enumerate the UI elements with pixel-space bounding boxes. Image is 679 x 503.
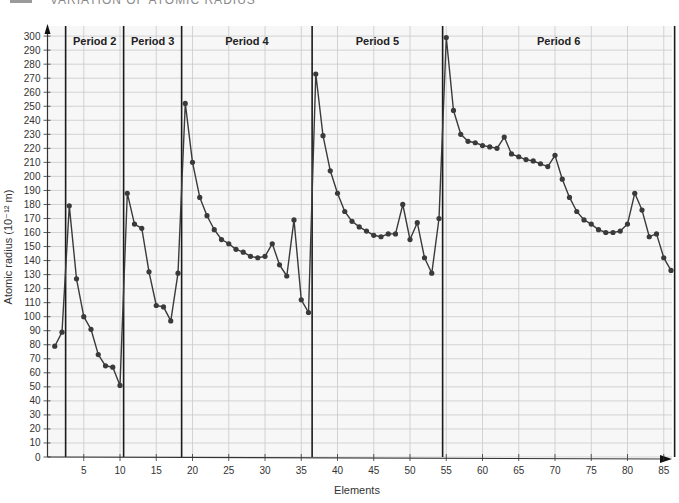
- data-point-marker: [625, 222, 630, 227]
- data-point-marker: [465, 139, 470, 144]
- data-point-marker: [473, 140, 478, 145]
- y-tick-label: 180: [24, 199, 41, 210]
- data-point-marker: [458, 132, 463, 137]
- period-label: Period 3: [131, 35, 174, 47]
- data-point-marker: [175, 271, 180, 276]
- data-point-marker: [480, 143, 485, 148]
- data-point-marker: [444, 35, 449, 40]
- data-point-marker: [277, 262, 282, 267]
- data-point-marker: [117, 383, 122, 388]
- data-point-marker: [487, 144, 492, 149]
- data-point-marker: [233, 247, 238, 252]
- x-tick-label: 65: [513, 465, 525, 476]
- y-tick-label: 250: [24, 101, 41, 112]
- data-point-marker: [146, 269, 151, 274]
- data-point-marker: [378, 234, 383, 239]
- data-point-marker: [262, 254, 267, 259]
- y-tick-label: 220: [24, 143, 41, 154]
- y-tick-label: 20: [29, 423, 41, 434]
- data-point-marker: [52, 344, 57, 349]
- y-tick-label: 130: [24, 269, 41, 280]
- data-point-marker: [328, 168, 333, 173]
- data-point-marker: [74, 276, 79, 281]
- data-point-marker: [407, 237, 412, 242]
- data-point-marker: [139, 226, 144, 231]
- data-point-marker: [552, 153, 557, 158]
- data-point-marker: [647, 234, 652, 239]
- data-point-marker: [270, 241, 275, 246]
- x-tick-label: 25: [223, 465, 235, 476]
- data-point-marker: [241, 250, 246, 255]
- y-tick-label: 230: [24, 129, 41, 140]
- data-point-marker: [255, 255, 260, 260]
- data-point-marker: [654, 231, 659, 236]
- y-axis-title: Atomic radius (10⁻¹² m): [2, 190, 14, 305]
- y-tick-label: 160: [24, 227, 41, 238]
- data-point-marker: [132, 222, 137, 227]
- data-point-marker: [59, 330, 64, 335]
- period-label: Period 5: [356, 35, 399, 47]
- data-point-marker: [212, 227, 217, 232]
- x-tick-label: 70: [549, 465, 561, 476]
- data-point-marker: [661, 255, 666, 260]
- x-axis-title: Elements: [334, 484, 380, 496]
- y-tick-label: 300: [24, 31, 41, 42]
- x-tick-label: 85: [658, 465, 670, 476]
- x-tick-label: 30: [259, 465, 271, 476]
- data-point-marker: [596, 227, 601, 232]
- data-point-marker: [349, 219, 354, 224]
- y-tick-label: 110: [25, 297, 41, 308]
- y-tick-label: 290: [24, 45, 41, 56]
- data-point-marker: [299, 297, 304, 302]
- data-point-marker: [88, 327, 93, 332]
- y-tick-label: 60: [29, 367, 41, 378]
- data-point-marker: [436, 216, 441, 221]
- y-tick-label: 120: [24, 283, 41, 294]
- y-tick-label: 10: [29, 437, 41, 448]
- data-point-marker: [393, 231, 398, 236]
- data-point-marker: [567, 195, 572, 200]
- data-point-marker: [103, 363, 108, 368]
- period-label: Period 2: [73, 35, 116, 47]
- x-tick-label: 10: [114, 465, 126, 476]
- y-tick-label: 70: [29, 353, 41, 364]
- y-tick-label: 280: [24, 59, 41, 70]
- data-point-marker: [531, 158, 536, 163]
- data-point-marker: [538, 161, 543, 166]
- data-point-marker: [219, 237, 224, 242]
- y-tick-label: 240: [24, 115, 41, 126]
- data-point-marker: [226, 241, 231, 246]
- data-point-marker: [603, 230, 608, 235]
- x-tick-label: 40: [332, 465, 344, 476]
- data-point-marker: [96, 352, 101, 357]
- data-point-marker: [357, 224, 362, 229]
- data-point-marker: [342, 209, 347, 214]
- data-point-marker: [639, 207, 644, 212]
- y-tick-label: 140: [24, 255, 41, 266]
- data-point-marker: [560, 177, 565, 182]
- data-point-marker: [364, 229, 369, 234]
- x-tick-label: 15: [151, 465, 163, 476]
- x-tick-label: 5: [81, 465, 87, 476]
- data-point-marker: [204, 213, 209, 218]
- y-tick-label: 30: [29, 409, 41, 420]
- data-point-marker: [335, 191, 340, 196]
- data-point-marker: [110, 365, 115, 370]
- x-tick-label: 20: [187, 465, 199, 476]
- y-tick-label: 200: [24, 171, 41, 182]
- y-tick-label: 270: [24, 73, 41, 84]
- data-point-marker: [313, 71, 318, 76]
- data-point-marker: [574, 209, 579, 214]
- y-tick-label: 40: [29, 395, 41, 406]
- y-axis-ticks: 0102030405060708090100110120130140150160…: [24, 31, 51, 463]
- data-point-marker: [154, 303, 159, 308]
- y-tick-label: 0: [35, 452, 41, 463]
- data-point-marker: [632, 191, 637, 196]
- x-tick-label: 45: [368, 465, 380, 476]
- data-point-marker: [429, 271, 434, 276]
- x-tick-label: 50: [404, 465, 416, 476]
- data-point-marker: [610, 230, 615, 235]
- y-tick-label: 170: [24, 213, 41, 224]
- x-tick-label: 55: [441, 465, 453, 476]
- data-point-marker: [618, 229, 623, 234]
